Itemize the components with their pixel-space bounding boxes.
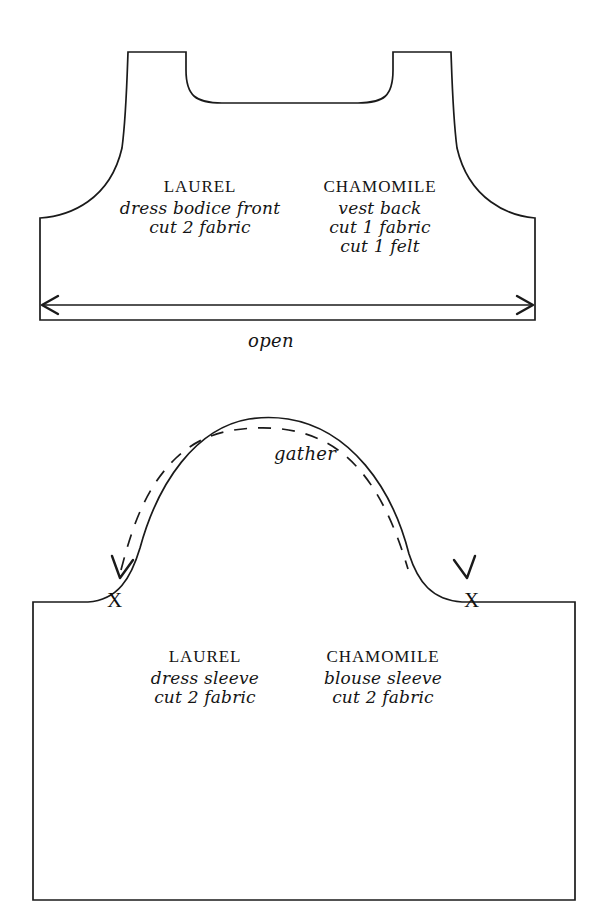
pattern-sheet: LAUREL dress bodice front cut 2 fabric C… — [0, 0, 607, 924]
cut-instruction: cut 1 fabric — [290, 219, 470, 236]
label-layer: LAUREL dress bodice front cut 2 fabric C… — [0, 0, 607, 924]
notch-marker-left: X — [107, 588, 122, 613]
piece-name: dress sleeve — [115, 670, 295, 687]
cut-instruction: cut 1 felt — [290, 238, 470, 255]
pattern-name: LAUREL — [110, 178, 290, 195]
bodice-label-laurel: LAUREL dress bodice front cut 2 fabric — [110, 178, 290, 236]
piece-name: vest back — [290, 200, 470, 217]
open-label: open — [248, 330, 294, 351]
cut-instruction: cut 2 fabric — [110, 219, 290, 236]
bodice-label-chamomile: CHAMOMILE vest back cut 1 fabric cut 1 f… — [290, 178, 470, 255]
piece-name: dress bodice front — [110, 200, 290, 217]
cut-instruction: cut 2 fabric — [115, 689, 295, 706]
pattern-name: CHAMOMILE — [290, 178, 470, 195]
piece-name: blouse sleeve — [293, 670, 473, 687]
cut-instruction: cut 2 fabric — [293, 689, 473, 706]
pattern-name: LAUREL — [115, 648, 295, 665]
notch-marker-right: X — [464, 588, 479, 613]
pattern-name: CHAMOMILE — [293, 648, 473, 665]
sleeve-label-chamomile: CHAMOMILE blouse sleeve cut 2 fabric — [293, 648, 473, 706]
gather-label: gather — [274, 443, 336, 464]
sleeve-label-laurel: LAUREL dress sleeve cut 2 fabric — [115, 648, 295, 706]
